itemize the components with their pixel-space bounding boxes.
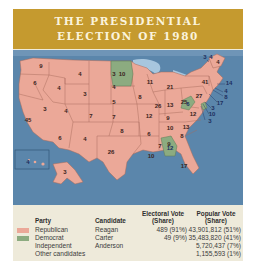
us-electoral-map: 9 6 45 4 3 4 3 4 6 7 4 3 4 5 7 8 26 10 8… xyxy=(13,50,243,205)
title-line-1: THE PRESIDENTIAL xyxy=(13,15,243,27)
ev-louisiana: 10 xyxy=(148,153,155,159)
row-popular: 5,720,437 (7%) xyxy=(196,242,241,249)
election-map-card: THE PRESIDENTIAL ELECTION OF 1980 xyxy=(13,9,243,261)
state-alaska xyxy=(53,162,83,184)
results-legend: Party Candidate Electoral Vote (Share) P… xyxy=(13,205,243,261)
row-candidate: Anderson xyxy=(95,242,123,249)
row-party: Democrat xyxy=(35,234,64,241)
ev-illinois: 26 xyxy=(155,103,162,109)
header-candidate: Candidate xyxy=(95,218,126,225)
header-party: Party xyxy=(35,218,51,225)
ev-virginia: 12 xyxy=(190,111,197,117)
ev-florida: 17 xyxy=(181,163,188,169)
ev-north-carolina: 13 xyxy=(183,124,190,130)
row-popular: 43,901,812 (51%) xyxy=(189,226,241,233)
title-banner: THE PRESIDENTIAL ELECTION OF 1980 xyxy=(13,9,243,49)
hawaii-inset xyxy=(15,150,49,169)
header-electoral: Electoral Vote (Share) xyxy=(135,211,191,225)
ev-georgia: 12 xyxy=(167,145,174,151)
ev-minnesota: 10 xyxy=(119,71,126,77)
ev-new-york: 41 xyxy=(202,79,209,85)
ev-missouri: 12 xyxy=(146,113,153,119)
row-party: Independent xyxy=(35,242,72,249)
title-line-2: ELECTION OF 1980 xyxy=(13,30,243,42)
ev-dc: 3 xyxy=(208,118,212,124)
ev-new-jersey: 17 xyxy=(217,100,224,106)
row-party: Republican xyxy=(35,226,68,233)
ev-indiana: 13 xyxy=(167,102,174,108)
row-candidate: Reagan xyxy=(95,226,118,233)
democrat-swatch xyxy=(17,236,29,241)
ev-wisconsin: 11 xyxy=(147,79,154,85)
ev-maryland: 10 xyxy=(209,111,216,117)
ev-california: 45 xyxy=(25,117,32,123)
ev-texas: 26 xyxy=(108,149,115,155)
ev-tennessee: 10 xyxy=(167,125,174,131)
row-electoral: 489 (91%) xyxy=(157,226,187,233)
republican-swatch xyxy=(17,228,29,233)
ev-massachusetts: 14 xyxy=(226,80,233,86)
ev-connecticut: 8 xyxy=(224,94,228,100)
header-popular: Popular Vote (Share) xyxy=(189,211,243,225)
row-electoral: 49 (9%) xyxy=(164,234,187,241)
row-popular: 1,155,593 (1%) xyxy=(196,250,241,257)
row-party: Other candidates xyxy=(35,250,85,257)
ev-michigan: 21 xyxy=(167,84,174,90)
row-candidate: Carter xyxy=(95,234,113,241)
map-svg: 9 6 45 4 3 4 3 4 6 7 4 3 4 5 7 8 26 10 8… xyxy=(13,50,243,205)
ev-pennsylvania: 27 xyxy=(196,93,203,99)
row-popular: 35,483,820 (41%) xyxy=(189,234,241,241)
